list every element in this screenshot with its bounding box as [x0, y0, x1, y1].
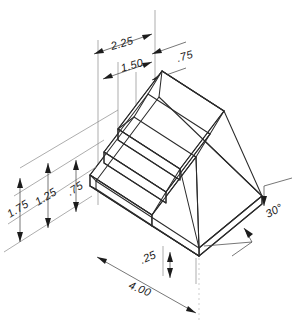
- ext-line-left-mid: [14, 140, 104, 196]
- arrow-1-75-top: [17, 178, 23, 188]
- dim-label-0-25: .25: [138, 248, 158, 266]
- arrow-0-75-upper: [152, 48, 162, 54]
- bottom-dimension-0-25: [167, 252, 173, 278]
- dim-label-0-75-left: .75: [65, 179, 86, 198]
- dim-label-1-25: 1.25: [33, 185, 59, 208]
- dim-label-1-50: 1.50: [119, 56, 145, 74]
- bottom-extension-lines: [163, 246, 199, 320]
- isometric-drawing-svg: 2.25 1.50 .75 1.75 1.25 .75 .25 4.00 30°: [0, 0, 305, 328]
- dim-label-4-00: 4.00: [127, 279, 153, 299]
- technical-drawing-canvas: 2.25 1.50 .75 1.75 1.25 .75 .25 4.00 30°: [0, 0, 305, 328]
- arrow-0-25-top: [167, 252, 173, 262]
- arrow-0-75-left-bottom: [73, 202, 79, 212]
- arrow-2-25-right: [142, 34, 152, 40]
- arrow-1-25-top: [45, 163, 51, 173]
- dim-label-30-deg: 30°: [263, 201, 285, 220]
- arrow-0-75-left-top: [73, 160, 79, 170]
- dim-label-1-75: 1.75: [5, 197, 31, 220]
- arrow-30-lower: [244, 228, 253, 238]
- arrow-0-25-bottom: [167, 268, 173, 278]
- arrow-4-00-left: [97, 257, 107, 264]
- dim-leader-30-upper: [264, 178, 292, 186]
- dim-label-2-25: 2.25: [108, 34, 135, 52]
- arrow-2-25-left: [94, 48, 104, 54]
- dim-label-0-75-top: .75: [175, 48, 195, 64]
- dim-leader-30-lower: [232, 242, 252, 256]
- object-geometry: [90, 71, 262, 256]
- arrow-4-00-right: [186, 306, 196, 313]
- arrow-1-50-left: [103, 73, 113, 79]
